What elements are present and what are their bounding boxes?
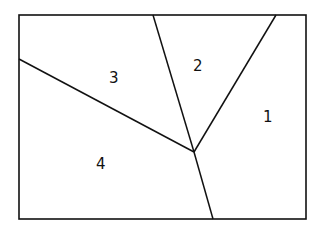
region-label-3: 3 bbox=[109, 69, 119, 87]
boundary-line-2-3 bbox=[153, 15, 194, 152]
boundary-line-3-4 bbox=[19, 59, 194, 152]
region-label-1: 1 bbox=[263, 108, 273, 126]
region-label-4: 4 bbox=[96, 155, 106, 173]
partition-diagram: 1 2 3 4 bbox=[0, 0, 321, 231]
region-label-2: 2 bbox=[193, 57, 203, 75]
boundary-line-1-2 bbox=[194, 15, 276, 152]
boundary-line-1-4 bbox=[194, 152, 213, 219]
